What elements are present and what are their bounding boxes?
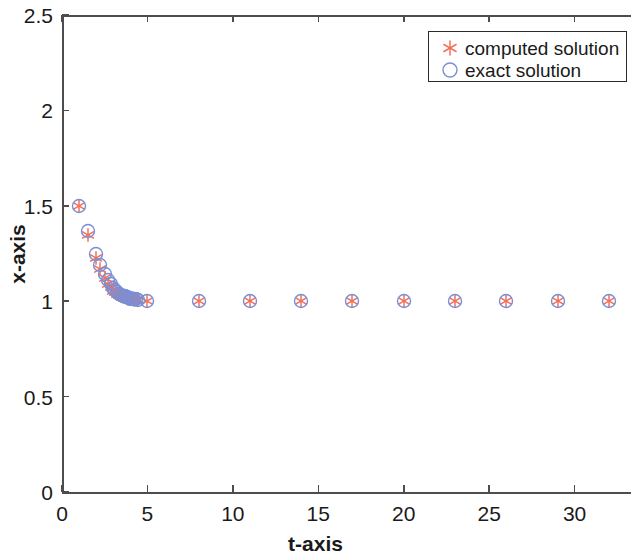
y-tick bbox=[62, 396, 69, 398]
y-tick bbox=[62, 205, 69, 207]
x-tick bbox=[574, 485, 576, 492]
x-tick-label: 5 bbox=[142, 503, 154, 524]
x-tick-top bbox=[403, 15, 405, 22]
asterisk-marker-icon bbox=[435, 37, 465, 59]
y-tick bbox=[62, 110, 69, 112]
y-tick-label: 2 bbox=[41, 100, 53, 121]
y-tick bbox=[62, 491, 69, 493]
y-axis-title: x-axis bbox=[7, 224, 28, 284]
x-tick bbox=[403, 485, 405, 492]
y-tick bbox=[62, 14, 69, 16]
y-axis-line bbox=[62, 15, 64, 492]
y-tick bbox=[62, 300, 69, 302]
x-tick bbox=[147, 485, 149, 492]
x-tick bbox=[488, 485, 490, 492]
x-axis-title: t-axis bbox=[0, 533, 631, 551]
x-tick-label: 15 bbox=[307, 503, 330, 524]
x-tick-label: 25 bbox=[477, 503, 500, 524]
legend-item-exact-solution: exact solution bbox=[435, 59, 581, 81]
y-tick-label: 1 bbox=[41, 291, 53, 312]
x-tick-top bbox=[488, 15, 490, 22]
y-tick-label: 0.5 bbox=[24, 386, 53, 407]
x-tick bbox=[318, 485, 320, 492]
y-tick-label: 0 bbox=[41, 482, 53, 503]
x-tick-top bbox=[147, 15, 149, 22]
x-tick-label: 20 bbox=[392, 503, 415, 524]
legend-label-computed-solution: computed solution bbox=[465, 39, 619, 58]
x-tick-label: 0 bbox=[56, 503, 68, 524]
chart-legend: computed solution exact solution bbox=[428, 31, 627, 82]
chart-figure: 051015202530 00.511.522.5 t-axis x-axis … bbox=[0, 0, 631, 551]
circle-marker-icon bbox=[435, 59, 465, 81]
y-tick-label: 1.5 bbox=[24, 195, 53, 216]
legend-label-exact-solution: exact solution bbox=[465, 61, 581, 80]
x-tick-top bbox=[574, 15, 576, 22]
x-tick-label: 10 bbox=[221, 503, 244, 524]
plot-area bbox=[62, 15, 631, 492]
x-tick-label: 30 bbox=[563, 503, 586, 524]
x-tick-top bbox=[232, 15, 234, 22]
x-tick bbox=[232, 485, 234, 492]
x-axis-line bbox=[62, 492, 631, 494]
x-tick-top bbox=[318, 15, 320, 22]
y-tick-label: 2.5 bbox=[24, 5, 53, 26]
legend-item-computed-solution: computed solution bbox=[435, 37, 619, 59]
x-tick-top bbox=[61, 15, 63, 22]
